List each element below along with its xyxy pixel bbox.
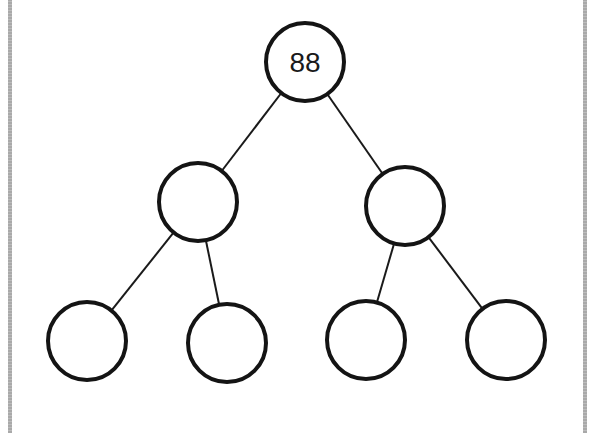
tree-node-left-right <box>188 304 266 382</box>
binary-tree-diagram: 88 <box>0 0 597 433</box>
tree-nodes: 88 <box>48 23 545 382</box>
node-circle <box>366 167 444 245</box>
tree-node-left-left <box>48 302 126 380</box>
edge-root-to-left <box>222 93 282 171</box>
tree-node-right-right <box>467 301 545 379</box>
tree-node-root: 88 <box>266 23 344 101</box>
node-label: 88 <box>289 47 320 78</box>
node-circle <box>327 301 405 379</box>
edge-right-to-right-right <box>428 237 482 309</box>
node-circle <box>467 301 545 379</box>
tree-node-right-left <box>327 301 405 379</box>
edge-left-to-left-left <box>111 232 173 310</box>
tree-node-left <box>159 163 237 241</box>
edge-root-to-right <box>327 94 383 174</box>
node-circle <box>188 304 266 382</box>
edge-left-to-left-right <box>206 240 219 305</box>
tree-node-right <box>366 167 444 245</box>
node-circle <box>48 302 126 380</box>
edge-right-to-right-left <box>377 243 394 302</box>
node-circle <box>159 163 237 241</box>
